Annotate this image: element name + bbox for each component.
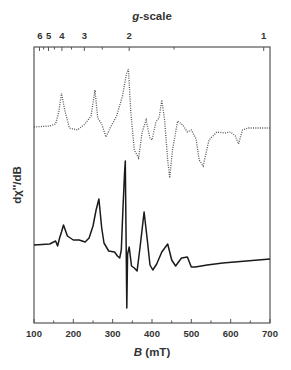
plot-frame bbox=[34, 47, 270, 323]
g-tick-label: 1 bbox=[261, 30, 267, 41]
top-g-axis-ticks: 654321 bbox=[37, 30, 267, 51]
y-axis-title: dχ''/dB bbox=[11, 166, 23, 204]
x-axis-title: B (mT) bbox=[134, 346, 171, 358]
g-tick-label: 6 bbox=[37, 30, 42, 41]
g-tick-label: 2 bbox=[127, 30, 132, 41]
x-tick-label: 300 bbox=[105, 328, 121, 339]
x-tick-label: 700 bbox=[262, 328, 278, 339]
epr-spectrum-chart: g-scale 654321 100200300400500600700 dχ'… bbox=[0, 0, 291, 370]
bottom-x-axis-ticks: 100200300400500600700 bbox=[26, 319, 278, 339]
g-tick-label: 3 bbox=[82, 30, 87, 41]
x-tick-label: 200 bbox=[65, 328, 81, 339]
x-tick-label: 600 bbox=[223, 328, 239, 339]
x-tick-label: 500 bbox=[183, 328, 199, 339]
top-axis-title: g-scale bbox=[131, 10, 172, 22]
g-tick-label: 5 bbox=[46, 30, 52, 41]
solid-experimental-trace bbox=[34, 161, 270, 308]
x-tick-label: 100 bbox=[26, 328, 42, 339]
x-tick-label: 400 bbox=[144, 328, 160, 339]
g-tick-label: 4 bbox=[59, 30, 65, 41]
dotted-simulated-trace bbox=[34, 69, 270, 178]
